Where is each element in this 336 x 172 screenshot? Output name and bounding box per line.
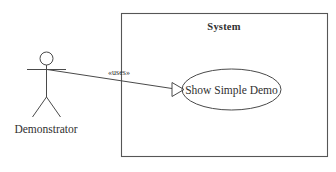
actor-label: Demonstrator bbox=[14, 123, 77, 135]
diagram-canvas: System Show Simple Demo Demonstrator «us… bbox=[0, 0, 336, 172]
actor-left-leg-icon bbox=[33, 97, 47, 117]
association-stereotype-label: «uses» bbox=[108, 68, 130, 77]
uml-use-case-diagram: System Show Simple Demo Demonstrator «us… bbox=[0, 0, 336, 172]
actor-right-leg-icon bbox=[47, 97, 61, 117]
system-boundary-label: System bbox=[207, 21, 240, 32]
actor-head-icon bbox=[40, 52, 53, 65]
use-case-label: Show Simple Demo bbox=[185, 84, 278, 97]
